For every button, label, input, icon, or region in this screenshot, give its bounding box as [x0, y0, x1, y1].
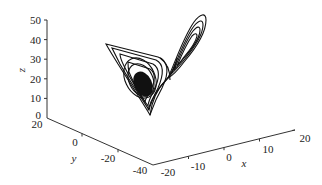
z-tick-50: 50 — [30, 14, 42, 26]
y-axis-label: y — [71, 152, 77, 164]
z-tick-10: 10 — [30, 92, 42, 104]
z-axis: 50 40 30 20 10 0 z — [15, 14, 47, 121]
y-tick-neg20: -20 — [101, 152, 116, 164]
x-tick-10: 10 — [263, 143, 275, 155]
y-axis: 20 0 -20 -40 y — [32, 118, 154, 176]
lorenz-3d-plot: 50 40 30 20 10 0 z 20 0 -20 -40 y -20 -1… — [0, 0, 322, 185]
x-tick-20: 20 — [300, 132, 312, 144]
y-tick-neg40: -40 — [133, 164, 148, 176]
attractor-trajectory — [106, 15, 206, 115]
z-tick-40: 40 — [30, 34, 42, 46]
x-axis: -20 -10 0 10 20 x — [153, 130, 311, 178]
y-tick-20: 20 — [32, 118, 44, 130]
x-tick-0: 0 — [226, 151, 232, 163]
x-axis-label: x — [241, 157, 247, 169]
x-tick-neg10: -10 — [191, 160, 206, 172]
z-tick-30: 30 — [30, 53, 42, 65]
y-tick-0: 0 — [72, 136, 78, 148]
x-tick-neg20: -20 — [161, 166, 176, 178]
z-tick-20: 20 — [30, 73, 42, 85]
z-axis-label: z — [15, 67, 27, 73]
